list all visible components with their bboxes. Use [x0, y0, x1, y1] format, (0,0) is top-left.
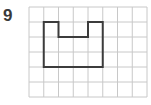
grid-diagram [0, 0, 151, 105]
